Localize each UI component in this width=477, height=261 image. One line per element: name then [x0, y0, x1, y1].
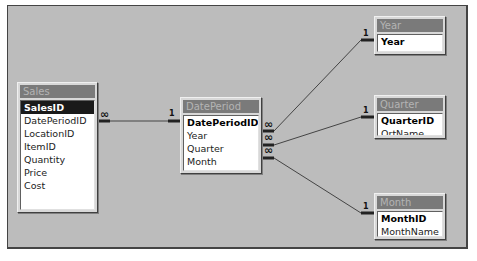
table-sales[interactable]: Sales SalesID DatePeriodID LocationID It… [17, 82, 98, 213]
table-quarter-title[interactable]: Quarter [377, 98, 443, 111]
field-monthname[interactable]: MonthName [378, 225, 442, 237]
field-month[interactable]: Month [184, 155, 258, 168]
field-salesid[interactable]: SalesID [21, 101, 94, 114]
table-dateperiod-title[interactable]: DatePeriod [183, 100, 259, 113]
field-quantity[interactable]: Quantity [21, 153, 94, 166]
cardinality-one-month: 1 [363, 203, 369, 211]
cardinality-many-dp-quarter: ∞ [264, 134, 272, 142]
table-year-field-list[interactable]: Year [377, 34, 443, 52]
field-dateperiodid[interactable]: DatePeriodID [184, 116, 258, 129]
cardinality-many-dp-year: ∞ [264, 121, 272, 129]
table-month[interactable]: Month MonthID MonthName [374, 193, 446, 240]
cardinality-many-sales: ∞ [100, 111, 108, 119]
field-price[interactable]: Price [21, 166, 94, 179]
table-sales-field-list[interactable]: SalesID DatePeriodID LocationID ItemID Q… [20, 100, 95, 210]
field-year[interactable]: Year [184, 129, 258, 142]
table-month-field-list[interactable]: MonthID MonthName [377, 211, 443, 237]
field-locationid[interactable]: LocationID [21, 127, 94, 140]
field-quarter[interactable]: Quarter [184, 142, 258, 155]
table-month-title[interactable]: Month [377, 196, 443, 209]
table-quarter[interactable]: Quarter QuarterID QrtName [374, 95, 446, 139]
cardinality-many-dp-month: ∞ [264, 147, 272, 155]
field-dateperiodid[interactable]: DatePeriodID [21, 114, 94, 127]
field-cost[interactable]: Cost [21, 179, 94, 192]
field-year[interactable]: Year [378, 35, 442, 48]
table-dateperiod[interactable]: DatePeriod DatePeriodID Year Quarter Mon… [180, 97, 262, 174]
field-quarterid[interactable]: QuarterID [378, 114, 442, 127]
field-monthid[interactable]: MonthID [378, 212, 442, 225]
table-year-title[interactable]: Year [377, 19, 443, 32]
cardinality-one-quarter: 1 [363, 107, 369, 115]
cardinality-one-dateperiod: 1 [169, 110, 175, 118]
cardinality-one-year: 1 [363, 30, 369, 38]
field-qrtname[interactable]: QrtName [378, 127, 442, 136]
table-quarter-field-list[interactable]: QuarterID QrtName [377, 113, 443, 136]
table-year[interactable]: Year Year [374, 16, 446, 55]
field-itemid[interactable]: ItemID [21, 140, 94, 153]
table-dateperiod-field-list[interactable]: DatePeriodID Year Quarter Month [183, 115, 259, 171]
table-sales-title[interactable]: Sales [20, 85, 95, 98]
